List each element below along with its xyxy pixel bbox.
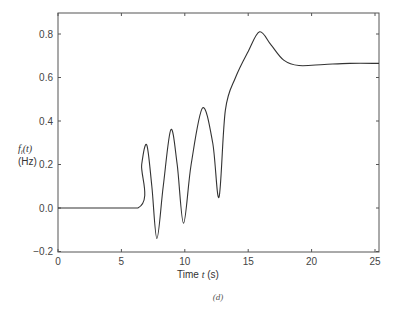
y-axis-label: fi(t) [18, 143, 33, 156]
y-tick-label: 0.8 [39, 29, 53, 40]
figure-caption: (d) [213, 292, 224, 302]
y-axis-unit: (Hz) [18, 156, 37, 167]
x-tick-label: 0 [55, 256, 61, 267]
y-tick-label: −0.2 [33, 246, 53, 257]
x-tick-label: 5 [119, 256, 125, 267]
x-axis-label: Time t (s) [177, 269, 219, 280]
plot-frame [58, 13, 379, 252]
chart: 0510152025−0.20.00.20.40.60.8 fi(t) (Hz)… [0, 0, 395, 314]
axis-ticks [58, 13, 379, 252]
y-tick-label: 0.4 [39, 116, 53, 127]
y-tick-label: 0.0 [39, 203, 53, 214]
data-line [58, 32, 379, 239]
x-tick-label: 25 [369, 256, 381, 267]
x-tick-label: 20 [306, 256, 318, 267]
y-tick-label: 0.6 [39, 72, 53, 83]
y-tick-label: 0.2 [39, 159, 53, 170]
x-tick-label: 10 [179, 256, 191, 267]
x-tick-label: 15 [243, 256, 255, 267]
